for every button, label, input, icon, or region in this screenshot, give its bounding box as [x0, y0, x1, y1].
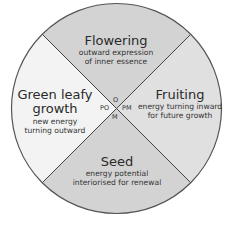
green-leafy-subtitle-2: turning outward: [14, 126, 96, 135]
center-label-pm: PM: [122, 104, 132, 112]
green-leafy-subtitle-1: new energy: [14, 117, 96, 126]
center-label-o: O: [113, 96, 118, 104]
seed-subtitle-1: energy potential: [66, 169, 168, 178]
fruiting-title: Fruiting: [135, 88, 225, 102]
label-seed: Seed energy potential interiorised for r…: [66, 155, 168, 188]
seed-subtitle-2: interiorised for renewal: [66, 178, 168, 187]
center-label-m: M: [112, 113, 118, 121]
green-leafy-title-1: Green leafy: [14, 88, 96, 102]
flowering-subtitle-2: of inner essence: [66, 57, 166, 66]
label-fruiting: Fruiting energy turning inward for futur…: [135, 88, 225, 121]
green-leafy-title-2: growth: [14, 102, 96, 116]
fruiting-subtitle-2: for future growth: [135, 111, 225, 120]
seed-title: Seed: [66, 155, 168, 169]
label-green-leafy-growth: Green leafy growth new energy turning ou…: [14, 88, 96, 135]
flowering-title: Flowering: [66, 34, 166, 48]
fruiting-subtitle-1: energy turning inward: [135, 102, 225, 111]
center-label-po: PO: [100, 104, 109, 112]
label-flowering: Flowering outward expression of inner es…: [66, 34, 166, 67]
flowering-subtitle-1: outward expression: [66, 48, 166, 57]
